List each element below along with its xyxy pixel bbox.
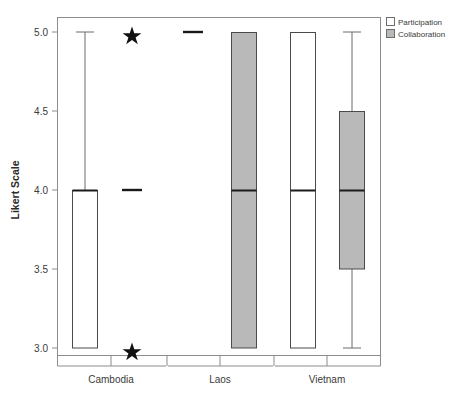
x-category-label-laos: Laos: [209, 374, 231, 385]
boxplot-chart: 3.0 3.5 4.0 4.5 5.0 Likert Scale Cambodi…: [0, 0, 455, 398]
box-group-vietnam-participation[interactable]: [291, 33, 316, 349]
y-tick-label-3-0: 3.0: [34, 343, 48, 354]
plot-frame: [58, 18, 381, 356]
x-category-label-vietnam: Vietnam: [309, 374, 346, 385]
box-group-cambodia-participation[interactable]: [73, 32, 98, 348]
y-tick-label-4-5: 4.5: [34, 106, 48, 117]
x-axis: [58, 356, 381, 366]
outlier-star-marker-high: [123, 27, 142, 45]
box-group-laos-collaboration[interactable]: [232, 33, 257, 349]
chart-canvas: 3.0 3.5 4.0 4.5 5.0 Likert Scale Cambodi…: [0, 0, 455, 398]
box-body: [73, 191, 98, 349]
y-tick-label-3-5: 3.5: [34, 264, 48, 275]
legend-swatch-participation: [387, 18, 395, 26]
x-category-label-cambodia: Cambodia: [88, 374, 134, 385]
box-group-cambodia-collaboration[interactable]: [122, 27, 142, 361]
legend-label-participation: Participation: [398, 18, 442, 27]
y-axis-ticks: [52, 32, 58, 348]
y-tick-label-5-0: 5.0: [34, 27, 48, 38]
legend: Participation Collaboration: [387, 18, 446, 40]
outlier-star-marker-low: [123, 343, 142, 361]
legend-label-collaboration: Collaboration: [398, 30, 445, 39]
y-axis-title: Likert Scale: [9, 160, 21, 219]
legend-swatch-collaboration: [387, 30, 395, 38]
y-tick-label-4-0: 4.0: [34, 185, 48, 196]
box-group-vietnam-collaboration[interactable]: [340, 32, 365, 348]
